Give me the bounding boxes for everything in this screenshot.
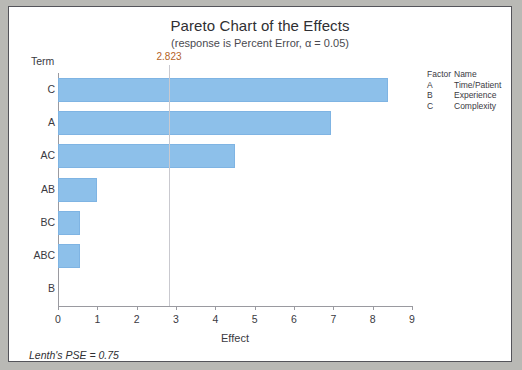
legend-factor: C: [427, 101, 454, 112]
x-axis-tick: [97, 306, 98, 310]
legend-factor: A: [427, 80, 454, 91]
y-axis-tick-label: C: [47, 83, 55, 95]
x-axis-tick-label: 1: [94, 313, 100, 325]
x-axis-tick: [412, 306, 413, 310]
x-axis-tick-label: 9: [409, 313, 415, 325]
legend-row: CComplexity: [427, 101, 518, 112]
chart-frame: Pareto Chart of the Effects (response is…: [8, 6, 512, 362]
x-axis-tick-label: 3: [173, 313, 179, 325]
bar: [58, 144, 235, 168]
x-axis-tick-label: 0: [55, 313, 61, 325]
legend-header-name: Name: [454, 69, 518, 80]
reference-line-label: 2.823: [157, 51, 182, 62]
plot-area: CAACABBCABCB 0123456789 2.823: [58, 73, 412, 306]
y-axis-tick-label: B: [48, 282, 55, 294]
x-axis-tick-label: 5: [252, 313, 258, 325]
legend-factor: B: [427, 90, 454, 101]
x-axis-tick: [333, 306, 334, 310]
legend-name: Complexity: [454, 101, 518, 112]
y-axis-tick-label: AC: [40, 149, 55, 161]
legend-row: BExperience: [427, 90, 518, 101]
x-axis-tick: [137, 306, 138, 310]
chart-subtitle: (response is Percent Error, α = 0.05): [9, 37, 511, 49]
legend-name: Experience: [454, 90, 518, 101]
x-axis-tick-label: 6: [291, 313, 297, 325]
lenth-pse-note: Lenth's PSE = 0.75: [29, 349, 119, 361]
legend-row: ATime/Patient: [427, 80, 518, 91]
x-axis-tick: [58, 306, 59, 310]
legend-header-row: Factor Name: [427, 69, 518, 80]
x-axis-tick-label: 8: [370, 313, 376, 325]
factor-legend: Factor Name ATime/PatientBExperienceCCom…: [427, 69, 518, 111]
y-axis-title: Term: [31, 55, 54, 67]
legend-name: Time/Patient: [454, 80, 518, 91]
y-axis-tick-label: A: [48, 116, 55, 128]
x-axis-tick: [176, 306, 177, 310]
bar: [58, 244, 80, 268]
y-axis-tick-label: BC: [40, 216, 55, 228]
x-axis-tick: [255, 306, 256, 310]
legend-header-factor: Factor: [427, 69, 454, 80]
x-axis-tick: [215, 306, 216, 310]
reference-line: [169, 65, 170, 306]
x-axis-tick-label: 7: [330, 313, 336, 325]
x-axis-tick: [373, 306, 374, 310]
chart-title: Pareto Chart of the Effects: [9, 17, 511, 34]
x-axis-line: [58, 306, 412, 307]
y-axis-tick-label: AB: [41, 183, 55, 195]
bar: [58, 111, 331, 135]
x-axis-tick: [294, 306, 295, 310]
x-axis-tick-label: 4: [212, 313, 218, 325]
x-axis-tick-label: 2: [134, 313, 140, 325]
bar: [58, 178, 97, 202]
bar: [58, 78, 388, 102]
x-axis-title: Effect: [58, 332, 412, 344]
y-axis-tick-label: ABC: [33, 249, 55, 261]
bar: [58, 211, 80, 235]
